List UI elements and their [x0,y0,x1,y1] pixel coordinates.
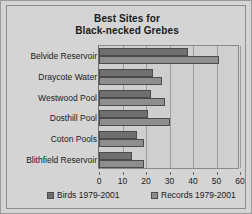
x-tick-mark [217,172,218,175]
legend-item: Birds 1979-2001 [47,190,119,200]
category-label: Blithfield Reservoir [0,155,97,165]
chart-title-line-1: Best Sites for [7,13,247,25]
bar [99,152,132,160]
legend-swatch-icon [47,192,54,199]
chart-figure: Best Sites for Black-necked Grebes Belvi… [0,0,252,214]
bar-group [99,129,238,150]
legend-swatch-icon [151,192,158,199]
bar [99,69,153,77]
category-axis-labels: Belvide ReservoirDraycote WaterWestwood … [0,46,97,170]
bar-group [99,87,238,108]
bar [99,56,219,64]
bar [99,118,170,126]
bar [99,160,144,168]
bar [99,131,137,139]
chart-legend: Birds 1979-2001Records 1979-2001 [7,190,247,204]
chart-title-line-2: Black-necked Grebes [7,25,247,37]
x-tick-label: 50 [205,176,229,186]
category-label: Dosthill Pool [0,113,97,123]
x-tick-label: 10 [111,176,135,186]
category-label: Draycote Water [0,72,97,82]
x-tick-label: 0 [87,176,111,186]
bar [99,90,151,98]
bar [99,139,144,147]
x-tick-label: 30 [158,176,182,186]
x-tick-mark [240,172,241,175]
x-tick-label: 60 [228,176,252,186]
category-label: Westwood Pool [0,93,97,103]
plot-area: Belvide ReservoirDraycote WaterWestwood … [98,45,239,169]
x-tick-mark [170,172,171,175]
gridline-60 [240,46,241,168]
bar [99,77,162,85]
category-label: Coton Pools [0,134,97,144]
x-tick-mark [99,172,100,175]
x-tick-mark [146,172,147,175]
bar [99,48,188,56]
legend-label: Birds 1979-2001 [57,190,119,200]
legend-item: Records 1979-2001 [151,190,236,200]
x-tick-label: 20 [134,176,158,186]
x-tick-label: 40 [181,176,205,186]
x-tick-mark [123,172,124,175]
bar [99,110,148,118]
bar-group [99,108,238,129]
bar-group [99,46,238,67]
bar [99,98,165,106]
chart-inner-frame: Best Sites for Black-necked Grebes Belvi… [6,5,246,209]
chart-title: Best Sites for Black-necked Grebes [7,13,247,37]
value-axis-labels: 0102030405060 [99,172,240,186]
x-tick-mark [193,172,194,175]
legend-label: Records 1979-2001 [161,190,236,200]
category-label: Belvide Reservoir [0,51,97,61]
bar-group [99,149,238,170]
bar-group [99,67,238,88]
